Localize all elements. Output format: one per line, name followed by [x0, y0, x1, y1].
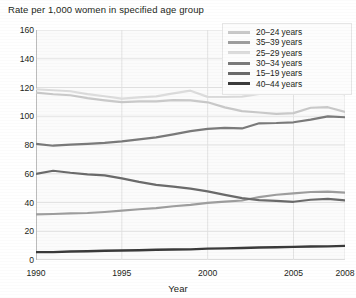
series-line-15-19 [36, 171, 345, 202]
x-axis-tick-label: 1990 [26, 268, 45, 278]
legend-item-label: 20–24 years [256, 27, 302, 37]
legend: 20–24 years35–39 years25–29 years30–34 y… [228, 27, 350, 89]
legend-color-swatch [228, 41, 250, 44]
series-line-30-34 [36, 116, 345, 145]
y-axis-tick-label: 80 [8, 140, 34, 150]
y-axis-tick-label: 160 [8, 25, 34, 35]
legend-color-swatch [228, 82, 250, 85]
x-axis-tick-label: 2000 [198, 268, 217, 278]
legend-color-swatch [228, 72, 250, 75]
y-axis-tick-label: 140 [8, 54, 34, 64]
y-axis-tick-label: 60 [8, 169, 34, 179]
line-chart: Rate per 1,000 women in specified age gr… [0, 0, 356, 298]
legend-item[interactable]: 30–34 years [228, 58, 350, 68]
legend-item[interactable]: 35–39 years [228, 37, 350, 47]
y-axis-tick-labels: 020406080100120140160 [4, 0, 34, 298]
y-axis-tick-label: 120 [8, 83, 34, 93]
legend-item-label: 15–19 years [256, 68, 302, 78]
y-axis-tick-label: 0 [8, 255, 34, 265]
x-axis-tick-label: 2008 [335, 268, 354, 278]
legend-item-label: 40–44 years [256, 79, 302, 89]
y-axis-tick-label: 40 [8, 198, 34, 208]
legend-item-label: 30–34 years [256, 58, 302, 68]
x-axis-title: Year [0, 283, 356, 294]
legend-item[interactable]: 15–19 years [228, 68, 350, 78]
legend-color-swatch [228, 51, 250, 54]
chart-title: Rate per 1,000 women in specified age gr… [8, 4, 204, 15]
legend-item-label: 25–29 years [256, 48, 302, 58]
legend-color-swatch [228, 62, 250, 65]
series-line-40-44 [36, 246, 345, 252]
y-axis-tick-label: 20 [8, 226, 34, 236]
y-axis-tick-label: 100 [8, 111, 34, 121]
legend-color-swatch [228, 31, 250, 34]
series-line-20-24 [36, 93, 345, 114]
legend-item-label: 35–39 years [256, 37, 302, 47]
x-axis-tick-label: 1995 [112, 268, 131, 278]
series-line-35-39 [36, 192, 345, 215]
legend-item[interactable]: 20–24 years [228, 27, 350, 37]
legend-item[interactable]: 40–44 years [228, 78, 350, 88]
legend-item[interactable]: 25–29 years [228, 48, 350, 58]
x-axis-tick-label: 2005 [284, 268, 303, 278]
